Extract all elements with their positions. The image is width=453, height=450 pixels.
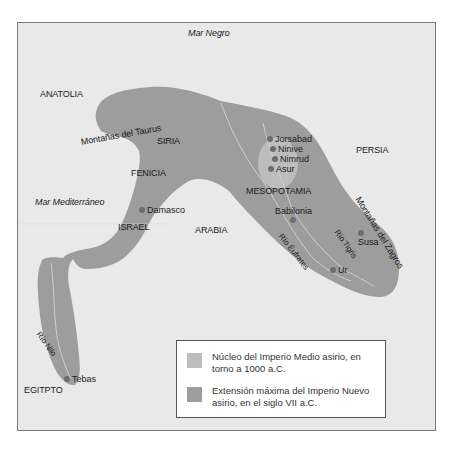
city-dot-icon	[64, 376, 70, 382]
legend-item-core: Núcleo del Imperio Medio asirio, en torn…	[187, 351, 377, 375]
city-dot-icon	[139, 207, 145, 213]
region-label-mesopotamia: MESOPOTAMIA	[246, 186, 311, 196]
legend-item-max: Extensión máxima del Imperio Nuevo asiri…	[187, 385, 377, 409]
legend-swatch-max	[187, 387, 202, 402]
legend-swatch-core	[187, 353, 202, 368]
city-asur: Asur	[268, 164, 295, 174]
city-dot-icon	[267, 136, 273, 142]
city-dot-icon	[358, 230, 364, 236]
city-jorsabad: Jorsabad	[267, 134, 312, 144]
map-legend: Núcleo del Imperio Medio asirio, en torn…	[176, 340, 386, 418]
region-label-fenicia: FENICIA	[131, 168, 166, 178]
city-nimrud: Nimrud	[272, 154, 309, 164]
city-ninive: Ninive	[270, 144, 303, 154]
sea-label-mar-negro: Mar Negro	[188, 28, 230, 38]
region-label-arabia: ARABIA	[195, 225, 227, 235]
city-tebas: Tebas	[64, 374, 96, 384]
city-dot-icon	[272, 156, 278, 162]
city-dot-icon	[290, 217, 296, 223]
city-dot-icon	[330, 267, 336, 273]
sea-label-mar-mediterraneo: Mar Mediterráneo	[35, 197, 104, 207]
city-susa: Susa	[358, 230, 379, 247]
region-label-anatolia: ANATOLIA	[40, 89, 83, 99]
city-ur: Ur	[330, 265, 348, 275]
city-babilonia: Babilonia	[275, 206, 312, 223]
region-label-israel: ISRAEL	[118, 222, 149, 232]
city-damasco: Damasco	[139, 205, 185, 215]
city-dot-icon	[270, 146, 276, 152]
region-label-siria: SIRIA	[157, 136, 180, 146]
region-label-persia: PERSIA	[356, 145, 388, 155]
region-label-egipto: EGITPTO	[24, 385, 63, 395]
city-dot-icon	[268, 166, 274, 172]
